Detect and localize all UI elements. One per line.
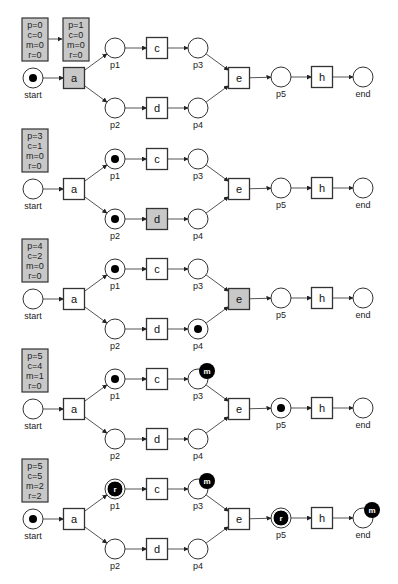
counter-r: r=0 xyxy=(28,381,41,391)
arc-a-p2 xyxy=(85,86,107,102)
transition-d[interactable]: d xyxy=(147,98,168,119)
transition-label: h xyxy=(319,402,325,414)
place-p2[interactable]: p2 xyxy=(105,98,125,130)
transition-c[interactable]: c xyxy=(147,479,168,500)
transition-h[interactable]: h xyxy=(312,288,333,309)
counter-r: r=0 xyxy=(28,271,41,281)
transition-e[interactable]: e xyxy=(229,68,250,89)
place-p2[interactable]: p2 xyxy=(105,209,125,241)
transition-a[interactable]: a xyxy=(64,509,85,530)
place-start[interactable]: start xyxy=(23,289,43,321)
arc-a-p1 xyxy=(85,275,107,291)
counter-box: p=0c=0m=0r=0 xyxy=(22,18,48,61)
place-p1[interactable]: p1 xyxy=(105,369,125,401)
counter-c: c=4 xyxy=(28,361,43,371)
counter-m: m=0 xyxy=(67,40,85,50)
place-start[interactable]: start xyxy=(23,179,43,211)
place-start[interactable]: start xyxy=(23,509,43,541)
transition-c[interactable]: c xyxy=(147,259,168,280)
counter-r: r=0 xyxy=(28,161,41,171)
counter-m: m=0 xyxy=(26,261,44,271)
transition-label: e xyxy=(236,293,242,305)
place-start[interactable]: start xyxy=(23,399,43,431)
transition-c[interactable]: c xyxy=(147,369,168,390)
transition-h[interactable]: h xyxy=(312,508,333,529)
counter-c: c=2 xyxy=(28,251,43,261)
transition-a[interactable]: a xyxy=(64,179,85,200)
place-p5[interactable]: p5 xyxy=(271,67,291,99)
place-p3[interactable]: p3 xyxy=(188,259,208,291)
place-label: end xyxy=(355,200,370,210)
transition-label: h xyxy=(319,71,325,83)
place-end[interactable]: end xyxy=(353,288,373,320)
transition-d[interactable]: d xyxy=(147,429,168,450)
place-label: p5 xyxy=(276,530,286,540)
place-p1[interactable]: p1 xyxy=(105,149,125,181)
transition-e[interactable]: e xyxy=(229,289,250,310)
transition-label: e xyxy=(236,183,242,195)
transition-h[interactable]: h xyxy=(312,67,333,88)
counter-m: m=0 xyxy=(26,151,44,161)
place-p5[interactable]: p5r xyxy=(271,508,291,540)
place-end[interactable]: end xyxy=(353,178,373,210)
place-label: p4 xyxy=(193,120,203,130)
transition-a[interactable]: a xyxy=(64,68,85,89)
transition-c[interactable]: c xyxy=(147,149,168,170)
remaining-token-letter: r xyxy=(279,514,282,523)
place-p5[interactable]: p5 xyxy=(271,178,291,210)
place-p3[interactable]: p3 xyxy=(188,38,208,70)
place-end[interactable]: endm xyxy=(353,502,380,540)
transition-h[interactable]: h xyxy=(312,398,333,419)
arc-e-p5 xyxy=(250,77,272,78)
transition-a[interactable]: a xyxy=(64,399,85,420)
token-icon xyxy=(194,325,202,333)
transition-e[interactable]: e xyxy=(229,399,250,420)
counter-p: p=5 xyxy=(27,461,42,471)
place-p3[interactable]: p3m xyxy=(188,473,215,511)
place-p5[interactable]: p5 xyxy=(271,398,291,430)
place-p1[interactable]: p1 xyxy=(105,259,125,291)
place-p5[interactable]: p5 xyxy=(271,288,291,320)
transition-label: d xyxy=(154,433,160,445)
transition-h[interactable]: h xyxy=(312,178,333,199)
place-p1[interactable]: p1 xyxy=(105,38,125,70)
transition-e[interactable]: e xyxy=(229,509,250,530)
place-p2[interactable]: p2 xyxy=(105,319,125,351)
place-p4[interactable]: p4 xyxy=(188,319,208,351)
transition-d[interactable]: d xyxy=(147,209,168,230)
place-label: p5 xyxy=(276,89,286,99)
transition-a[interactable]: a xyxy=(64,289,85,310)
place-label: p4 xyxy=(193,341,203,351)
place-start[interactable]: start xyxy=(23,68,43,100)
place-p4[interactable]: p4 xyxy=(188,98,208,130)
place-p4[interactable]: p4 xyxy=(188,209,208,241)
place-p2[interactable]: p2 xyxy=(105,429,125,461)
place-p2[interactable]: p2 xyxy=(105,539,125,571)
place-p3[interactable]: p3 xyxy=(188,149,208,181)
place-p3[interactable]: p3m xyxy=(188,363,215,401)
transition-e[interactable]: e xyxy=(229,179,250,200)
panel-2: p=3c=1m=0r=0startp1p2p3p4p5endacdeh xyxy=(22,129,373,241)
transition-c[interactable]: c xyxy=(147,38,168,59)
transition-label: d xyxy=(154,213,160,225)
transition-label: d xyxy=(154,323,160,335)
transition-label: a xyxy=(71,513,78,525)
token-icon xyxy=(29,74,37,82)
transition-d[interactable]: d xyxy=(147,539,168,560)
token-icon xyxy=(111,375,119,383)
place-end[interactable]: end xyxy=(353,67,373,99)
transition-d[interactable]: d xyxy=(147,319,168,340)
counter-c: c=0 xyxy=(28,30,43,40)
place-label: p2 xyxy=(110,561,120,571)
arc-a-p2 xyxy=(85,417,107,433)
arc-p3-e xyxy=(206,275,228,291)
place-end[interactable]: end xyxy=(353,398,373,430)
place-p4[interactable]: p4 xyxy=(188,539,208,571)
place-p1[interactable]: p1r xyxy=(105,479,125,511)
place-label: p3 xyxy=(193,281,203,291)
place-p4[interactable]: p4 xyxy=(188,429,208,461)
arc-p4-e xyxy=(206,86,228,102)
remaining-token-letter: r xyxy=(113,485,116,494)
place-label: p1 xyxy=(110,391,120,401)
counter-p: p=4 xyxy=(27,241,42,251)
